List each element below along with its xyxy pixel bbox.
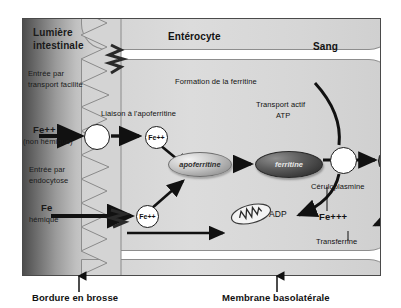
diagram-canvas: Fe++ Fe++ apoferritine ferritine Fe++ Lu… — [0, 0, 401, 308]
caption-pointers — [0, 0, 401, 308]
brush-border-caption: Bordure en brosse — [32, 292, 118, 303]
basolateral-membrane-caption: Membrane basolatérale — [222, 292, 330, 303]
